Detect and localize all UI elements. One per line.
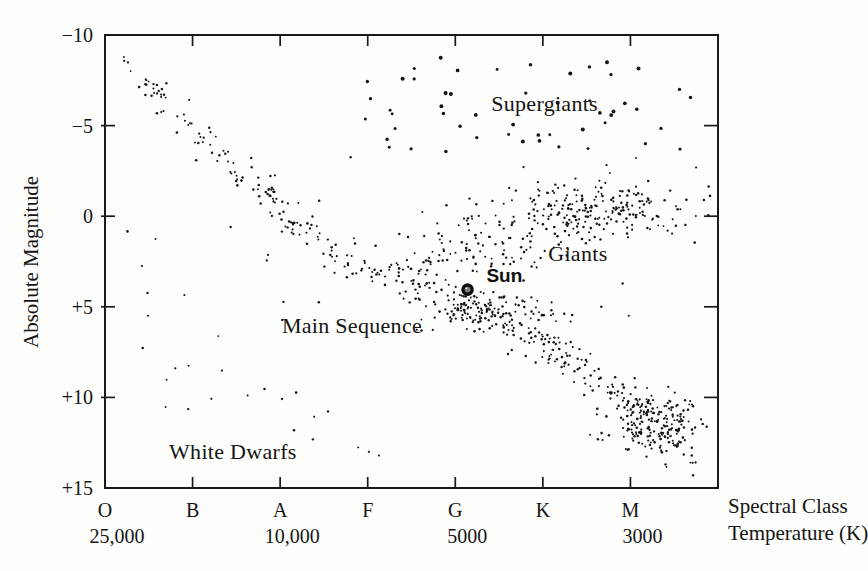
scatter-point <box>503 227 505 229</box>
scatter-point <box>668 429 670 431</box>
scatter-point <box>439 104 443 108</box>
scatter-point <box>620 210 622 212</box>
scatter-point <box>641 200 643 202</box>
scatter-point <box>650 420 652 422</box>
scatter-point <box>293 429 296 432</box>
sun-label: Sun <box>486 265 522 286</box>
scatter-point <box>650 201 652 203</box>
scatter-point <box>461 317 463 319</box>
scatter-point <box>646 227 649 230</box>
scatter-point <box>218 154 220 156</box>
scatter-point <box>195 159 198 162</box>
scatter-point <box>647 199 649 201</box>
scatter-point <box>586 211 589 214</box>
scatter-point <box>568 234 570 236</box>
scatter-point <box>628 213 631 216</box>
scatter-point <box>551 208 553 210</box>
scatter-point <box>479 320 482 323</box>
scatter-point <box>266 259 268 261</box>
scatter-point <box>671 413 674 416</box>
scatter-point <box>537 189 539 191</box>
scatter-point <box>667 433 669 435</box>
scatter-point <box>635 194 637 196</box>
scatter-point <box>641 193 643 195</box>
scatter-point <box>489 299 491 301</box>
x-tick-label-class: K <box>536 499 551 521</box>
scatter-point <box>533 219 535 221</box>
scatter-point <box>519 322 522 325</box>
scatter-point <box>478 302 480 304</box>
scatter-point <box>489 309 491 311</box>
scatter-point <box>257 176 259 178</box>
scatter-point <box>709 195 712 198</box>
scatter-point <box>455 318 457 320</box>
scatter-point <box>401 77 405 81</box>
scatter-point <box>668 400 670 402</box>
scatter-point <box>477 307 480 310</box>
scatter-point <box>656 215 659 218</box>
scatter-point <box>252 188 254 190</box>
scatter-point <box>490 315 492 317</box>
scatter-point <box>573 370 575 372</box>
scatter-point <box>298 234 300 236</box>
scatter-point <box>693 241 696 244</box>
scatter-point <box>636 418 639 421</box>
scatter-point <box>611 199 613 201</box>
scatter-point <box>541 314 543 316</box>
scatter-point <box>570 221 572 223</box>
scatter-point <box>475 303 477 305</box>
scatter-point <box>165 406 167 408</box>
scatter-point <box>581 197 584 200</box>
scatter-point <box>479 315 481 317</box>
scatter-point <box>563 362 565 364</box>
scatter-point <box>410 147 413 150</box>
scatter-point <box>606 222 608 224</box>
scatter-point <box>646 398 648 400</box>
scatter-point <box>542 223 545 226</box>
scatter-point <box>152 88 154 90</box>
scatter-point <box>176 115 178 117</box>
scatter-point <box>650 395 652 397</box>
scatter-point <box>482 244 484 246</box>
scatter-point <box>369 97 372 100</box>
scatter-point <box>467 217 469 219</box>
scatter-point <box>560 366 562 368</box>
scatter-point <box>551 349 553 351</box>
scatter-point <box>470 297 472 299</box>
scatter-point <box>689 400 691 402</box>
scatter-point <box>417 283 420 286</box>
scatter-point <box>209 131 211 133</box>
scatter-point <box>189 122 191 124</box>
scatter-point <box>567 208 569 210</box>
scatter-point <box>638 442 641 445</box>
scatter-point <box>463 218 465 220</box>
scatter-point <box>503 203 505 205</box>
scatter-point <box>577 223 579 225</box>
scatter-point <box>444 150 448 154</box>
scatter-point <box>534 361 536 363</box>
scatter-point <box>346 276 349 279</box>
scatter-point <box>700 418 702 420</box>
scatter-point <box>360 269 362 271</box>
scatter-point <box>188 99 190 101</box>
scatter-point <box>444 308 446 310</box>
scatter-point <box>540 338 542 340</box>
scatter-point <box>472 270 474 272</box>
scatter-point <box>679 441 682 444</box>
scatter-point <box>426 269 428 271</box>
scatter-point <box>663 225 665 227</box>
scatter-point <box>636 403 638 405</box>
scatter-point <box>512 334 515 337</box>
scatter-point <box>574 215 577 218</box>
scatter-point <box>628 428 630 430</box>
scatter-point <box>569 203 571 205</box>
scatter-point <box>514 303 516 305</box>
scatter-point <box>475 237 477 239</box>
scatter-point <box>441 242 443 244</box>
scatter-point <box>633 422 635 424</box>
scatter-point <box>509 237 511 239</box>
scatter-point <box>528 327 530 329</box>
scatter-point <box>447 299 449 301</box>
scatter-point <box>632 213 634 215</box>
scatter-point <box>653 430 655 432</box>
